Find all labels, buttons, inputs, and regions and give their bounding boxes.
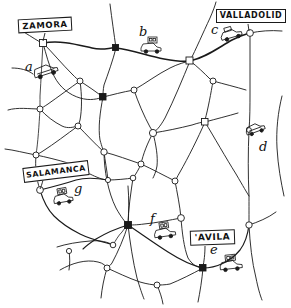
node-j18	[246, 222, 252, 228]
marker-letter-g[interactable]: g	[74, 182, 82, 195]
road-205-175	[175, 122, 205, 181]
node-j6	[75, 123, 81, 129]
road-175-181	[175, 181, 181, 218]
road-avila-west-low	[157, 268, 203, 285]
node-j2	[131, 87, 137, 93]
node-j16	[66, 248, 71, 253]
city-label-valladolid-text: VALLADOLID	[220, 12, 282, 20]
road-103-104	[99, 97, 104, 152]
road-249-right	[249, 212, 276, 225]
node-j1	[77, 78, 83, 84]
marker-letter-a[interactable]: a	[25, 60, 33, 73]
road-center-right-link	[205, 113, 238, 122]
road-zamora-south	[36, 43, 43, 155]
city-label-valladolid[interactable]: VALLADOLID	[216, 9, 286, 23]
road-141-153	[141, 133, 153, 164]
road-b-down	[103, 48, 116, 97]
road-valladolid-south	[249, 33, 250, 130]
roads-layer	[5, 2, 284, 304]
road-hub-f-south	[128, 225, 144, 299]
road-bottom-3	[101, 268, 107, 298]
road-134-190	[134, 61, 190, 90]
node-j12	[130, 175, 136, 181]
node-j17	[110, 242, 116, 248]
road-zamora-center	[43, 43, 103, 97]
node-salamanca	[37, 187, 44, 194]
vehicle-marker-e	[219, 254, 243, 273]
node-hub-f	[125, 222, 132, 229]
road-205-249	[205, 122, 249, 196]
road-b-up	[110, 4, 116, 48]
road-d-south	[249, 225, 262, 300]
node-j10	[101, 149, 107, 155]
road-133-108	[108, 178, 133, 180]
marker-letter-f[interactable]: f	[150, 212, 155, 225]
road-west-fringe-2	[5, 149, 36, 155]
node-j14	[172, 178, 178, 184]
road-avila-south	[198, 268, 203, 302]
node-j5	[37, 106, 43, 112]
vehicle-marker-g	[52, 187, 74, 206]
city-label-zamora-text: ZAMORA	[22, 20, 68, 31]
road-lower-left-1	[57, 241, 113, 247]
road-175-141	[141, 164, 175, 181]
node-j20	[154, 282, 160, 288]
road-104-141	[104, 152, 141, 164]
road-hub-f-west	[83, 225, 128, 249]
marker-letter-d[interactable]: d	[259, 140, 267, 153]
node-j19	[104, 265, 110, 271]
road-west-fringe-1	[8, 108, 40, 110]
road-minor-2	[40, 109, 78, 128]
road-right-fringe	[277, 96, 284, 196]
road-lower-left-2	[60, 261, 107, 270]
node-valladolid	[247, 30, 254, 37]
road-190-153	[153, 61, 190, 133]
marker-letter-c[interactable]: c	[211, 23, 218, 36]
node-b-junction	[113, 45, 119, 51]
vehicle-marker-b	[141, 37, 161, 53]
node-main-junction	[186, 57, 193, 64]
road-134-153	[134, 90, 153, 133]
road-213-east	[213, 81, 246, 90]
city-label-zamora[interactable]: ZAMORA	[18, 17, 73, 34]
marker-letter-e[interactable]: e	[210, 243, 218, 256]
road-bottom-1	[107, 268, 157, 285]
road-80-78	[78, 81, 82, 126]
node-j13	[105, 177, 110, 182]
road-153-205	[153, 122, 205, 133]
node-j4	[210, 78, 216, 84]
road-valladolid-east	[250, 31, 282, 33]
hand-drawn-road-map: ZAMORA VALLADOLID SALAMANCA 'AVILA a b c…	[0, 0, 291, 308]
road-213-205	[205, 81, 213, 122]
vehicle-marker-c	[219, 24, 243, 43]
road-hub-f-north	[128, 186, 129, 225]
node-j11	[138, 161, 144, 167]
road-salamanca-border	[40, 190, 113, 245]
road-78-36	[36, 126, 78, 155]
node-j8	[202, 119, 209, 126]
node-j21	[247, 128, 252, 133]
marker-letter-b[interactable]: b	[139, 25, 147, 38]
node-j7	[149, 129, 156, 136]
road-valladolid-south-2	[248, 130, 249, 225]
leader-avila	[203, 246, 205, 266]
road-103-134	[103, 90, 134, 97]
node-j3	[100, 94, 107, 101]
vehicle-marker-f	[153, 221, 176, 240]
road-104-128	[104, 152, 128, 225]
node-j15	[178, 215, 185, 222]
road-network-svg	[0, 0, 291, 308]
node-j9	[33, 152, 39, 158]
